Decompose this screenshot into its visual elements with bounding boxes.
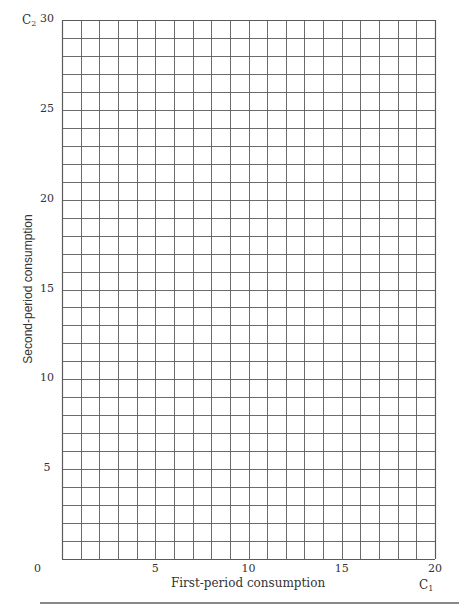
x-tick-label: 15: [330, 563, 354, 574]
origin-label: 0: [34, 563, 41, 574]
y-tick-label: 30: [36, 13, 58, 24]
x-variable-label: C1: [419, 579, 433, 593]
y-tick-label: 10: [36, 372, 58, 383]
x-tick-label: 20: [423, 563, 447, 574]
x-variable-base: C: [419, 578, 428, 592]
y-axis-title: Second-period consumption: [21, 214, 35, 363]
chart-area: C2 C1 0 51015202530 5101520 First-period…: [0, 0, 459, 605]
y-variable-label: C2: [22, 14, 36, 28]
y-tick-label: 20: [36, 193, 58, 204]
y-variable-base: C: [22, 13, 31, 27]
page-divider: [40, 602, 459, 604]
x-variable-subscript: 1: [428, 584, 433, 593]
grid-paper: [0, 0, 459, 605]
x-tick-label: 10: [237, 563, 261, 574]
y-tick-label: 5: [36, 462, 58, 473]
x-tick-label: 5: [143, 563, 167, 574]
y-tick-label: 25: [36, 103, 58, 114]
y-tick-label: 15: [36, 283, 58, 294]
x-axis-title: First-period consumption: [120, 576, 376, 590]
